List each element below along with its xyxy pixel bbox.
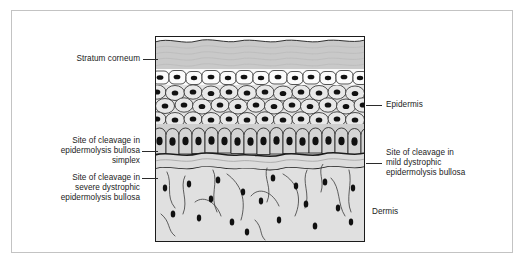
- leader-cleavage-mild-dystrophic: [366, 163, 382, 164]
- label-stratum-corneum: Stratum corneum: [30, 54, 140, 64]
- spinous-cell-layer: [155, 84, 365, 128]
- skin-layers-illustration: [155, 36, 365, 242]
- leader-cleavage-simplex: [142, 151, 158, 152]
- leader-stratum-corneum: [143, 59, 158, 60]
- leader-epidermis: [366, 105, 382, 106]
- label-epidermis: Epidermis: [386, 100, 496, 110]
- label-dermis: Dermis: [372, 207, 452, 217]
- label-cleavage-simplex: Site of cleavage in epidermolysis bullos…: [28, 136, 140, 167]
- stratum-corneum-layer: [155, 40, 365, 70]
- skin-cross-section-diagram: Stratum corneum Site of cleavage in epid…: [0, 0, 524, 272]
- label-cleavage-mild-dystrophic: Site of cleavage in mild dystrophic epid…: [386, 148, 510, 179]
- dermis-layer: [155, 164, 365, 242]
- leader-cleavage-severe-dystrophic: [142, 178, 158, 179]
- label-cleavage-severe-dystrophic: Site of cleavage in severe dystrophic ep…: [20, 173, 140, 204]
- granular-cell-layer: [155, 69, 365, 86]
